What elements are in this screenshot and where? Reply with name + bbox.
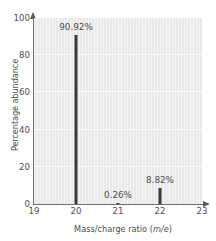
y-tick-label: 100 [14,13,30,23]
x-tick-label: 20 [71,206,82,216]
gridline-horizontal [34,166,202,167]
bar-value-label: 90.92% [59,22,93,32]
mass-spectrum-chart: Percentage abundance 020406080100 90.92%… [0,0,216,241]
bar-value-label: 0.26% [104,190,132,200]
x-tick-label: 21 [113,206,124,216]
x-axis-tick-labels: 1920212223 [34,206,202,220]
y-tick-label: 60 [19,87,30,97]
gridline-horizontal [34,129,202,130]
bar [75,35,78,204]
y-tick-label: 80 [19,50,30,60]
x-tick-label: 23 [197,206,208,216]
x-axis-title-suffix: ) [169,224,172,234]
x-axis-line [33,204,205,205]
x-tick-label: 19 [29,206,40,216]
x-axis-title: Mass/charge ratio (m/e) [34,224,212,234]
bar [159,188,162,204]
x-tick-label: 22 [155,206,166,216]
gridline-horizontal [34,91,202,92]
y-tick-label: 40 [19,125,30,135]
x-axis-title-prefix: Mass/charge ratio ( [74,224,153,234]
x-axis-title-unit: m/e [153,224,169,234]
bar-value-label: 8.82% [146,175,174,185]
gridline-horizontal [34,54,202,55]
y-axis-tick-labels: 020406080100 [14,14,30,205]
plot-area: 90.92%0.26%8.82% [34,18,202,204]
y-tick-label: 20 [19,162,30,172]
